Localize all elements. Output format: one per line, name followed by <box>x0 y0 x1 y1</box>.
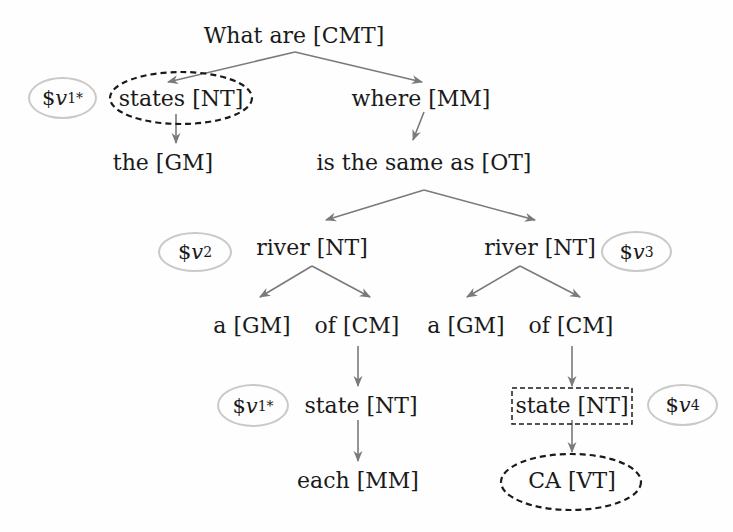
variable-v1-star-bottom: $v1* <box>217 384 289 427</box>
variable-subscript: 3 <box>645 244 654 260</box>
node-is-the-same-as-ot: is the same as [OT] <box>317 152 532 174</box>
variable-prefix: $ <box>42 86 55 110</box>
edge-arrow <box>260 266 312 297</box>
variable-subscript: 1 <box>67 90 76 106</box>
node-of-cm-left: of [CM] <box>315 315 400 337</box>
variable-prefix: $ <box>619 240 632 264</box>
edge-arrow <box>424 190 535 220</box>
node-states-nt: states [NT] <box>119 88 243 110</box>
node-where-mm: where [MM] <box>352 88 491 110</box>
edge-arrow <box>168 52 295 82</box>
edge-arrow <box>413 112 424 140</box>
node-ca-vt: CA [VT] <box>528 470 615 492</box>
variable-v4: $v4 <box>647 384 718 426</box>
edge-arrow <box>467 266 520 297</box>
parse-tree-diagram: What are [CMT] states [NT] where [MM] th… <box>0 0 733 532</box>
node-river-nt-right: river [NT] <box>484 237 596 259</box>
variable-subscript: 1 <box>258 398 267 414</box>
selection-markers <box>110 72 641 510</box>
variable-subscript: 4 <box>691 397 700 413</box>
variable-name: v <box>679 393 691 417</box>
variable-superscript: * <box>267 398 274 414</box>
node-each-mm: each [MM] <box>297 470 419 492</box>
edge-arrow <box>326 190 424 220</box>
variable-name: v <box>191 240 203 264</box>
variable-prefix: $ <box>232 394 245 418</box>
edge-arrow <box>312 266 370 297</box>
variable-name: v <box>55 86 67 110</box>
variable-v3: $v3 <box>601 231 672 272</box>
edge-arrow <box>295 52 422 82</box>
variable-name: v <box>246 394 258 418</box>
variable-v2: $v2 <box>158 232 232 272</box>
node-river-nt-left: river [NT] <box>256 237 368 259</box>
variable-superscript: * <box>76 90 83 106</box>
variable-prefix: $ <box>665 393 678 417</box>
node-what-are-cmt: What are [CMT] <box>204 25 385 47</box>
variable-subscript: 2 <box>203 244 212 260</box>
node-the-gm: the [GM] <box>113 152 213 174</box>
node-state-nt-right: state [NT] <box>515 395 628 417</box>
node-state-nt-left: state [NT] <box>304 395 417 417</box>
variable-name: v <box>633 240 645 264</box>
variable-prefix: $ <box>178 240 191 264</box>
node-of-cm-right: of [CM] <box>529 315 614 337</box>
edge-arrow <box>520 266 580 297</box>
node-a-gm-right: a [GM] <box>427 315 504 337</box>
node-a-gm-left: a [GM] <box>213 315 290 337</box>
variable-v1-star-top: $v1* <box>28 77 97 119</box>
